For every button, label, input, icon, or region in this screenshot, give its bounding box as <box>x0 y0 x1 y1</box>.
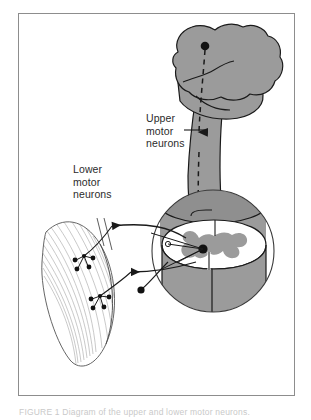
muscle-group <box>42 218 118 366</box>
cortical-cell-body <box>201 42 210 51</box>
axon-terminal-bouton <box>137 286 144 293</box>
label-lower-motor-neurons: Lower motor neurons <box>73 163 112 201</box>
cord-top-ellipse <box>160 187 266 223</box>
spinal-cord-inset <box>152 187 274 322</box>
figure-root: Upper motor neurons Lower motor neurons … <box>0 0 311 420</box>
muscle-tendon-upper-2 <box>104 218 112 250</box>
figure-caption: FIGURE 1 Diagram of the upper and lower … <box>19 407 295 417</box>
label-upper-motor-neurons: Upper motor neurons <box>146 112 185 150</box>
cerebrum-shape <box>173 24 283 100</box>
brain-group <box>173 24 283 216</box>
motor-neuron-diagram <box>0 0 311 420</box>
